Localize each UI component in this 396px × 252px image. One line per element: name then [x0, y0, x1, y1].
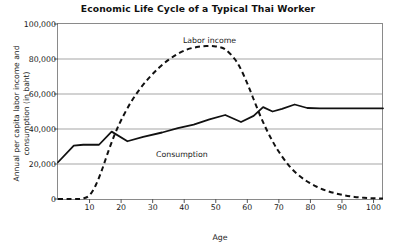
- x-tick-label: 70: [264, 203, 294, 212]
- y-tick-label: 60,000: [10, 90, 56, 99]
- x-tick-label: 100: [359, 203, 389, 212]
- chart-title: Economic Life Cycle of a Typical Thai Wo…: [0, 3, 396, 14]
- y-tick-label: 80,000: [10, 55, 56, 64]
- x-tick-label: 90: [327, 203, 357, 212]
- y-tick-label: 40,000: [10, 125, 56, 134]
- x-tick-label: 60: [232, 203, 262, 212]
- x-tick-label: 10: [75, 203, 105, 212]
- economic-life-cycle-chart: Economic Life Cycle of a Typical Thai Wo…: [0, 0, 396, 252]
- x-tick-label: 80: [295, 203, 325, 212]
- y-tick-label: 20,000: [10, 160, 56, 169]
- x-axis-label: Age: [55, 233, 385, 242]
- y-tick-label: 0: [10, 195, 56, 204]
- series-line-labor-income: [58, 46, 383, 199]
- plot-frame: [58, 24, 383, 200]
- x-tick-label: 50: [201, 203, 231, 212]
- y-axis-tick-labels: 020,00040,00060,00080,000100,000: [0, 0, 56, 252]
- x-tick-label: 20: [106, 203, 136, 212]
- series-annotation-consumption: Consumption: [156, 150, 208, 159]
- x-tick-label: 40: [169, 203, 199, 212]
- x-tick-label: 30: [138, 203, 168, 212]
- y-tick-label: 100,000: [10, 20, 56, 29]
- gridlines: [58, 59, 383, 164]
- series-annotation-labor-income: Labor income: [183, 36, 236, 45]
